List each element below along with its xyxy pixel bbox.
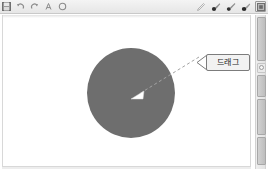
scrollbar-thumb[interactable] xyxy=(257,17,266,61)
save-icon xyxy=(2,2,11,11)
shape-icon xyxy=(58,2,67,11)
save-button[interactable] xyxy=(1,1,12,12)
callout-label: 드래그 xyxy=(217,59,239,67)
undo-button[interactable] xyxy=(15,1,26,12)
brush2-icon xyxy=(241,2,251,12)
toolbar-left-group xyxy=(1,1,68,12)
top-toolbar xyxy=(0,0,268,14)
redo-button[interactable] xyxy=(29,1,40,12)
ellipse-shape[interactable] xyxy=(87,48,175,138)
square-icon xyxy=(257,3,265,11)
scrollbar-segment[interactable] xyxy=(257,137,266,165)
square-tool-button[interactable] xyxy=(255,1,266,12)
marker-button[interactable] xyxy=(225,1,236,12)
undo-icon xyxy=(16,2,25,11)
text-tool-button[interactable] xyxy=(43,1,54,12)
canvas-top-shadow xyxy=(3,15,250,18)
drawing-canvas[interactable]: 드래그 xyxy=(2,15,251,167)
right-scroll-panel xyxy=(253,15,268,169)
redo-icon xyxy=(30,2,39,11)
highlighter-button[interactable] xyxy=(240,1,251,12)
shape-tool-button[interactable] xyxy=(57,1,68,12)
scrollbar-segment[interactable] xyxy=(257,99,266,135)
scrollbar-segment[interactable] xyxy=(257,75,266,97)
brush-button[interactable] xyxy=(210,1,221,12)
canvas-bottom-edge xyxy=(2,167,251,169)
text-icon xyxy=(44,2,53,11)
pencil-button[interactable] xyxy=(195,1,206,12)
callout-box[interactable]: 드래그 xyxy=(206,54,250,71)
scrollbar-handle-dot[interactable] xyxy=(259,65,264,70)
vertical-scrollbar[interactable] xyxy=(255,15,266,169)
drawing-app-window: 드래그 xyxy=(0,0,268,169)
pencil-icon xyxy=(196,2,206,12)
marker-icon xyxy=(226,2,236,12)
toolbar-right-group xyxy=(195,1,266,12)
brush-icon xyxy=(211,2,221,12)
